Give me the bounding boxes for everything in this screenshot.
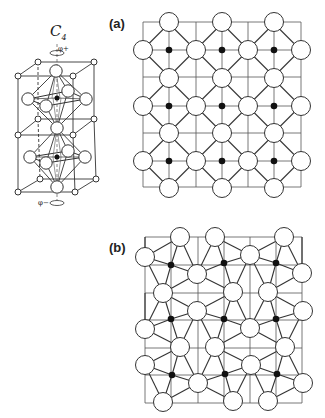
atom-circle [40,100,52,112]
atom-circle [134,152,153,171]
atom-circle [187,97,206,116]
atom-circle [160,13,179,32]
atom-circle [292,97,311,116]
cation-dot [166,103,173,110]
atom-circle [160,179,179,198]
atom-circle [136,320,155,339]
cation-dot [168,262,175,269]
cation-dot [219,47,226,54]
corner-atom [91,116,97,122]
cation-dot [221,260,228,267]
atom-circle [239,97,258,116]
c4-axis-label: C4 [50,22,67,42]
atom-circle [294,374,313,393]
atom-circle [154,393,173,412]
atom-circle [154,284,173,303]
atom-circle [241,319,260,338]
cell-edge [18,119,38,135]
panel-b-label: (b) [109,240,126,255]
cation-dot [271,47,278,54]
atom-circle [79,151,91,163]
corner-atom [15,73,21,79]
cation-dot [274,371,281,378]
corner-atom [35,59,41,65]
atom-circle [213,69,232,88]
atom-circle [265,124,284,143]
cell-edge [75,179,96,192]
atom-circle [136,356,155,375]
atom-circle [188,302,207,321]
cell-edge [38,119,40,179]
atom-circle [188,265,207,284]
rotation-arrow-icon [50,201,64,206]
cation-dot [55,155,60,160]
atom-circle [265,179,284,198]
corner-atom [91,59,97,65]
crystal-structure-figure [0,0,325,418]
cation-dot [219,103,226,110]
unit-cell-diagram [15,44,99,206]
cation-dot [271,158,278,165]
atom-circle [242,356,261,375]
atom-circle [292,152,311,171]
corner-atom [15,132,21,138]
atom-circle [134,41,153,60]
atom-circle [265,13,284,32]
atom-circle [50,65,62,77]
cation-dot [169,372,176,379]
atom-circle [160,124,179,143]
cell-edge [18,62,38,76]
corner-atom [15,189,21,195]
cation-dot [221,316,228,323]
axis-symbol: C [50,22,61,40]
atom-circle [275,228,294,247]
cation-dot [271,103,278,110]
cation-dot [219,158,226,165]
atom-circle [213,124,232,143]
atom-circle [224,392,243,411]
atom-circle [213,179,232,198]
atom-circle [51,181,63,193]
atom-circle [171,228,190,247]
cation-dot [166,47,173,54]
panel-a-label: (a) [109,16,125,31]
atom-circle [189,374,208,393]
atom-circle [171,338,190,357]
corner-atom [72,189,78,195]
cell-edge [18,179,40,192]
atom-circle [24,151,36,163]
corner-atom [70,73,76,79]
atom-circle [294,302,313,321]
atom-circle [265,69,284,88]
atom-circle [134,97,153,116]
axis-order: 4 [61,33,66,42]
cation-dot [273,260,280,267]
cation-dot [166,158,173,165]
atom-circle [293,264,312,283]
panel-a-lattice [134,13,311,198]
atom-circle [259,283,278,302]
atom-circle [241,246,260,265]
atom-circle [80,93,92,105]
panel-b-lattice [136,228,313,412]
phi-minus-label: φ− [38,199,49,207]
cell-edge [94,119,96,179]
cell-edge [73,135,75,192]
atom-circle [239,41,258,60]
corner-atom [70,132,76,138]
cation-dot [55,96,60,101]
atom-circle [40,157,52,169]
atom-circle [206,228,225,247]
atom-circle [51,122,63,134]
corner-atom [93,176,99,182]
cation-dot [168,316,175,323]
cation-dot [273,316,280,323]
atom-circle [292,41,311,60]
atom-circle [259,392,278,411]
atom-circle [62,85,74,97]
atom-circle [22,93,34,105]
cell-edge [73,119,94,135]
cation-dot [222,371,229,378]
atom-circle [160,69,179,88]
atom-circle [187,41,206,60]
